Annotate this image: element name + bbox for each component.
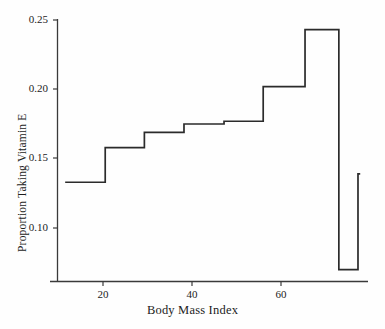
x-tick-label-60: 60 <box>266 288 296 300</box>
x-tick-label-20: 20 <box>88 288 118 300</box>
chart-figure: 0.25 0.20 0.15 0.10 20 40 60 Body Mass I… <box>0 0 385 329</box>
y-axis-title: Proportion Taking Vitamin E <box>16 113 28 252</box>
y-tick-label-0: 0.25 <box>12 13 48 25</box>
x-tick-label-40: 40 <box>177 288 207 300</box>
chart-plot-area <box>0 0 385 329</box>
y-tick-label-1: 0.20 <box>12 82 48 94</box>
step-line-series <box>65 30 360 270</box>
x-axis-title: Body Mass Index <box>0 303 385 318</box>
